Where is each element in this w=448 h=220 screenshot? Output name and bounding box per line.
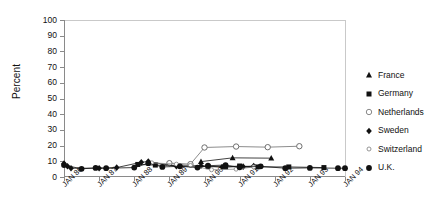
legend-item-france[interactable]: France — [362, 66, 448, 85]
legend-item-germany[interactable]: Germany — [362, 85, 448, 104]
legend-item-label: Netherlands — [378, 108, 424, 117]
filled-square-icon — [362, 87, 376, 101]
plot-frame-right — [345, 20, 346, 178]
y-axis-tick-label: 70 — [30, 63, 57, 72]
filled-circle-icon — [362, 161, 376, 175]
y-axis-tick-label: 10 — [30, 157, 57, 166]
y-axis-tick-label: 30 — [30, 125, 57, 134]
open-circle-icon — [362, 105, 376, 119]
y-axis-tick — [60, 36, 64, 37]
legend-item-label: France — [378, 71, 404, 80]
y-axis-tick — [60, 114, 64, 115]
legend-item-label: Germany — [378, 89, 413, 98]
legend-item-label: Switzerland — [378, 145, 422, 154]
y-axis-tick-label: 20 — [30, 141, 57, 150]
y-axis-tick — [60, 83, 64, 84]
y-axis-tick-label: 60 — [30, 78, 57, 87]
y-axis-tick — [60, 67, 64, 68]
y-axis-tick — [60, 99, 64, 100]
legend-item-sweden[interactable]: Sweden — [362, 122, 448, 141]
legend-item-switzerland[interactable]: Switzerland — [362, 140, 448, 159]
y-axis-tick-label: 40 — [30, 110, 57, 119]
y-axis-tick — [60, 130, 64, 131]
y-axis-tick — [60, 20, 64, 21]
y-axis-tick — [60, 51, 64, 52]
y-axis-tick-label: 0 — [30, 173, 57, 182]
open-circle-small-icon — [362, 142, 376, 156]
legend-item-netherlands[interactable]: Netherlands — [362, 103, 448, 122]
y-axis-tick — [60, 146, 64, 147]
chart-legend: FranceGermanyNetherlandsSwedenSwitzerlan… — [362, 66, 448, 177]
y-axis-title: Percent — [11, 52, 22, 112]
y-axis-tick-label: 90 — [30, 31, 57, 40]
filled-diamond-icon — [362, 124, 376, 138]
chart-root: Percent 0102030405060708090100 JAN 86JAN… — [0, 0, 448, 220]
y-axis-tick-label: 100 — [30, 16, 57, 25]
filled-triangle-icon — [362, 68, 376, 82]
legend-item-uk[interactable]: U.K. — [362, 159, 448, 178]
y-axis-tick — [60, 161, 64, 162]
y-axis-tick-label: 50 — [30, 94, 57, 103]
y-axis-tick-label: 80 — [30, 47, 57, 56]
legend-item-label: Sweden — [378, 126, 409, 135]
plot-area — [64, 20, 345, 177]
legend-item-label: U.K. — [378, 163, 395, 172]
